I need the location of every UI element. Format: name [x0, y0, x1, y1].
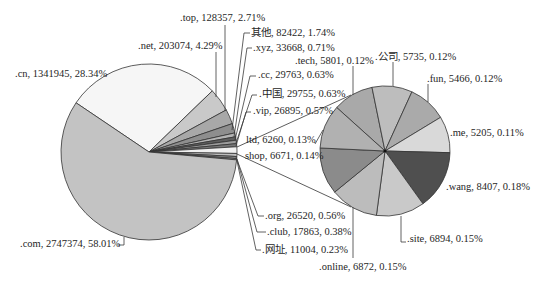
label-wangzhi: .网址, 11004, 0.23%	[262, 243, 348, 255]
main-pie	[61, 64, 237, 240]
label-xyz: .xyz, 33668, 0.71%	[253, 42, 335, 53]
pie-of-pie-chart: .cn, 1341945, 28.34% .net, 203074, 4.29%…	[0, 0, 540, 285]
label-net: .net, 203074, 4.29%	[138, 40, 223, 51]
label-cn: .cn, 1341945, 28.34%	[15, 68, 107, 79]
label-wang: .wang, 8407, 0.18%	[446, 181, 530, 192]
label-other: 其他, 82422, 1.74%	[251, 26, 335, 38]
leader-line-wangzhi	[237, 161, 261, 250]
label-me: .me, 5205, 0.11%	[450, 127, 524, 138]
label-ltd: ltd, 6260, 0.13%	[246, 134, 316, 145]
leader-line-site	[401, 216, 406, 242]
label-com: .com, 2747374, 58.01%	[20, 238, 121, 249]
chart-canvas: .cn, 1341945, 28.34% .net, 203074, 4.29%…	[0, 0, 540, 285]
label-shop: shop, 6671, 0.14%	[245, 150, 324, 161]
label-top: .top, 128357, 2.71%	[180, 12, 265, 23]
label-org: .org, 26520, 0.56%	[265, 210, 346, 221]
label-club: .club, 17863, 0.38%	[267, 226, 352, 237]
secondary-pie-center-dot	[383, 149, 386, 152]
label-cc: .cc, 29763, 0.63%	[258, 69, 334, 80]
label-gongsi: .公司, 5735, 0.12%	[375, 51, 457, 62]
label-online: .online, 6872, 0.15%	[319, 261, 407, 272]
label-site: .site, 6894, 0.15%	[407, 233, 483, 244]
label-fun: .fun, 5466, 0.12%	[427, 73, 502, 84]
label-zhongguo: .中国, 29755, 0.63%	[259, 87, 346, 99]
leader-line-club	[237, 159, 266, 232]
label-vip: .vip, 26895, 0.57%	[253, 105, 333, 116]
label-tech: .tech, 5801, 0.12%	[295, 55, 374, 66]
